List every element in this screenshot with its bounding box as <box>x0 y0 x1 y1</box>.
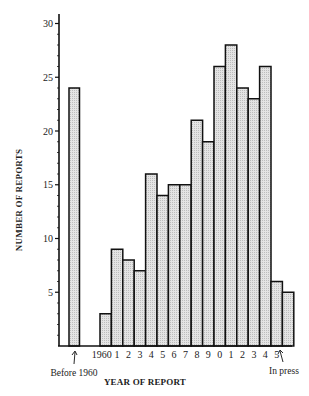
x-tick-label: 7 <box>183 349 188 360</box>
y-axis-title: NUMBER OF REPORTS <box>14 149 24 251</box>
bar-1964 <box>146 174 157 346</box>
bar-1965 <box>157 196 168 347</box>
bar-in-press <box>282 292 293 346</box>
x-tick-label: 9 <box>206 349 211 360</box>
x-tick-label: 3 <box>137 349 142 360</box>
x-tick-label: 4 <box>149 349 154 360</box>
bar-1967 <box>180 185 191 346</box>
bar-1970 <box>214 67 225 347</box>
arrow-up-icon <box>72 351 77 364</box>
bar-1968 <box>191 120 202 346</box>
x-tick-label: 8 <box>194 349 199 360</box>
bar-1975 <box>271 282 282 347</box>
x-tick-label: 2 <box>126 349 131 360</box>
bar-chart: 51015202530 1960123456789012345 NUMBER O… <box>0 0 309 396</box>
y-axis-ticks: 51015202530 <box>43 18 59 335</box>
y-tick-label: 10 <box>43 233 53 244</box>
x-tick-label: 5 <box>160 349 165 360</box>
bar-before-1960 <box>69 88 80 346</box>
x-tick-label: 1 <box>229 349 234 360</box>
bar-1974 <box>260 67 271 347</box>
bar-1963 <box>134 271 145 346</box>
x-tick-label: 1960 <box>92 349 112 360</box>
bars <box>69 45 294 346</box>
bar-1962 <box>123 260 134 346</box>
bar-1971 <box>225 45 236 346</box>
y-tick-label: 20 <box>43 126 53 137</box>
x-tick-label: 0 <box>217 349 222 360</box>
x-axis-title: YEAR OF REPORT <box>104 377 186 387</box>
bar-1972 <box>237 88 248 346</box>
y-tick-label: 25 <box>43 72 53 83</box>
bar-1969 <box>203 142 214 346</box>
x-axis-tick-labels: 1960123456789012345 <box>92 349 280 360</box>
bar-1961 <box>111 249 122 346</box>
y-tick-label: 30 <box>43 18 53 29</box>
bar-1966 <box>168 185 179 346</box>
svg-text:In press: In press <box>269 366 299 376</box>
y-tick-label: 15 <box>43 179 53 190</box>
x-tick-label: 2 <box>240 349 245 360</box>
bar-1960 <box>100 314 111 346</box>
svg-text:Before 1960: Before 1960 <box>50 368 97 378</box>
x-tick-label: 6 <box>172 349 177 360</box>
bar-1973 <box>248 99 259 346</box>
x-tick-label: 4 <box>263 349 268 360</box>
x-tick-label: 3 <box>251 349 256 360</box>
x-tick-label: 5 <box>274 349 279 360</box>
y-tick-label: 5 <box>48 287 53 298</box>
x-tick-label: 1 <box>115 349 120 360</box>
